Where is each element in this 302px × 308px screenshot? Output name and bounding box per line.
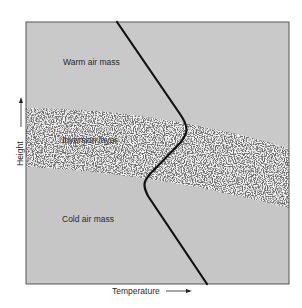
y-axis-label: Height [15, 141, 25, 166]
cold-air-mass-label: Cold air mass [62, 214, 114, 224]
inversion-layer-label: Inversion layer [62, 135, 117, 145]
inversion-diagram: Warm air mass Inversion layer Cold air m… [0, 0, 302, 308]
warm-air-mass-label: Warm air mass [63, 57, 120, 67]
y-axis-arrow-icon [19, 97, 23, 127]
x-axis-arrow-icon [166, 289, 192, 293]
x-axis-label: Temperature [112, 286, 160, 296]
